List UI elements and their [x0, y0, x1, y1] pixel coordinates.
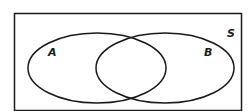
universe-label: S: [227, 27, 235, 40]
set-a-label: A: [47, 46, 57, 59]
set-a-ellipse: [28, 33, 166, 103]
set-b-label: B: [204, 46, 212, 59]
venn-diagram: A B S: [0, 0, 249, 111]
set-b-ellipse: [96, 33, 234, 103]
